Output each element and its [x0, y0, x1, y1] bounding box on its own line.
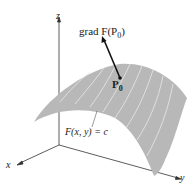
z-axis-label: z	[56, 10, 60, 21]
x-axis-label: x	[6, 159, 10, 170]
x-axis-arrow-icon	[17, 161, 23, 165]
y-axis-label: y	[180, 172, 184, 183]
gradient-label: grad F(P0)	[79, 25, 125, 40]
surface-label: F(x, y) = c	[65, 126, 108, 137]
surface-label-leader	[92, 111, 97, 127]
x-axis	[20, 145, 59, 163]
point-label: P0	[112, 78, 123, 93]
